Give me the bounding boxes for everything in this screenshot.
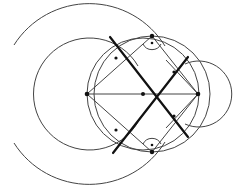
point-r3: [172, 70, 175, 73]
right-angle-dot-bottom: [151, 144, 154, 147]
point-r4: [114, 128, 117, 131]
point-m: [141, 92, 145, 96]
diagram-canvas: [0, 0, 242, 193]
right-angle-marker-bottom: [143, 138, 161, 144]
segment-a-p: [87, 36, 152, 94]
point-r2: [172, 114, 175, 117]
point-p: [150, 34, 154, 38]
right-angle-dot-top: [151, 42, 154, 45]
point-b: [196, 92, 201, 97]
point-r1: [114, 56, 117, 59]
outer-arc-lower: [14, 142, 165, 184]
segment-b-lower: [166, 94, 198, 128]
thick-line-1: [110, 37, 188, 137]
outer-arc: [14, 4, 165, 46]
point-a: [85, 92, 90, 97]
point-q: [150, 150, 154, 154]
right-angle-marker-top: [143, 44, 161, 50]
